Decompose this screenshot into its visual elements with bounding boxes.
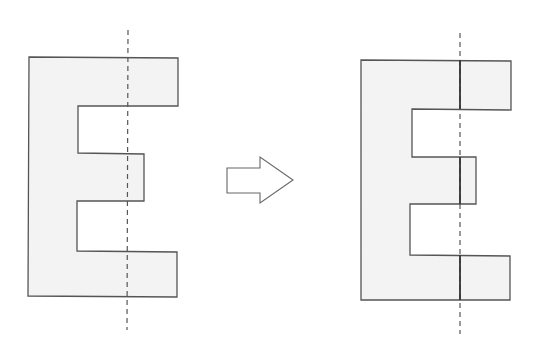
right-e-outline xyxy=(361,60,511,300)
diagram-canvas xyxy=(0,0,543,353)
left-e-shape xyxy=(28,30,178,330)
right-arrow-icon xyxy=(227,157,293,203)
transform-arrow xyxy=(227,157,293,203)
right-e-shape xyxy=(361,33,511,334)
left-e-outline xyxy=(28,57,178,297)
